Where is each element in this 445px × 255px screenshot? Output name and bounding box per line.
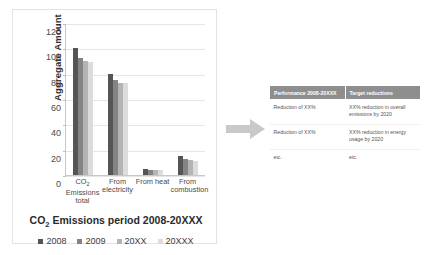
legend-swatch	[38, 239, 43, 244]
x-axis-title-prefix: CO	[30, 214, 46, 226]
table-cell: etc.	[270, 150, 346, 168]
y-axis-tick-label: 40	[35, 128, 61, 138]
table-cell: etc.	[345, 150, 421, 168]
legend-item: 20XXX	[158, 236, 194, 246]
legend-label: 2008	[46, 236, 66, 246]
legend-item: 20XX	[117, 236, 147, 246]
y-axis-tickmark	[63, 176, 66, 177]
plot-area	[65, 24, 205, 176]
table-row: Reduction of XX%XX% reduction in overall…	[270, 100, 421, 125]
chart-legend: 2008200920XX20XXX	[21, 236, 211, 246]
chart-plot-wrapper: Aggregate Amount 020406080100120 CO2 Emi…	[21, 16, 211, 201]
x-axis-category-label: Fromelectricity	[101, 178, 135, 206]
table-cell: Reduction of XX%	[270, 125, 346, 150]
legend-swatch	[77, 239, 82, 244]
y-axis-tick-label: 20	[35, 154, 61, 164]
legend-label: 20XX	[125, 236, 147, 246]
y-axis-tick-label: 120	[35, 27, 61, 37]
bar-group	[108, 24, 128, 175]
table-column-header: Target reductions	[345, 86, 421, 100]
reductions-table: Performance 2008-20XXXTarget reductions …	[269, 85, 421, 167]
y-axis-tick-label: 0	[35, 179, 61, 189]
bar	[193, 161, 198, 175]
legend-swatch	[158, 239, 163, 244]
bar	[88, 62, 93, 175]
legend-label: 2009	[85, 236, 105, 246]
table-cell: Reduction of XX%	[270, 100, 346, 125]
x-axis-title: CO2 Emissions period 2008-20XXX	[21, 214, 211, 229]
table-header: Performance 2008-20XXXTarget reductions	[270, 86, 421, 100]
bar-groups	[66, 24, 205, 175]
x-axis-title-suffix: Emissions period 2008-20XXX	[50, 214, 203, 226]
target-reductions-panel: Performance 2008-20XXXTarget reductions …	[269, 85, 421, 167]
legend-item: 2008	[38, 236, 66, 246]
y-axis-tick-labels: 020406080100120	[35, 24, 61, 176]
legend-swatch	[117, 239, 122, 244]
table-body: Reduction of XX%XX% reduction in overall…	[270, 100, 421, 168]
x-axis-category-label: Fromcombustion	[171, 178, 205, 206]
table-cell: XX% reduction in energy usage by 2020	[345, 125, 421, 150]
bar	[158, 170, 163, 175]
x-axis-category-label: From heat	[136, 178, 170, 206]
y-axis-tick-label: 80	[35, 78, 61, 88]
y-axis-tick-label: 100	[35, 52, 61, 62]
table-header-row: Performance 2008-20XXXTarget reductions	[270, 86, 421, 100]
bar	[123, 83, 128, 175]
bar-group	[143, 24, 163, 175]
bar-group	[73, 24, 93, 175]
x-axis-category-labels: CO2 EmissionstotalFromelectricityFrom he…	[65, 178, 205, 206]
y-axis-tick-label: 60	[35, 103, 61, 113]
chart-panel: Aggregate Amount 020406080100120 CO2 Emi…	[12, 9, 217, 244]
table-row: etc.etc.	[270, 150, 421, 168]
bar-group	[178, 24, 198, 175]
legend-label: 20XXX	[166, 236, 194, 246]
table-column-header: Performance 2008-20XXX	[270, 86, 346, 100]
table-cell: XX% reduction in overall emissions by 20…	[345, 100, 421, 125]
x-axis-category-label: CO2 Emissionstotal	[66, 178, 100, 206]
flow-arrow-icon	[226, 118, 266, 140]
table-row: Reduction of XX%XX% reduction in energy …	[270, 125, 421, 150]
legend-item: 2009	[77, 236, 105, 246]
